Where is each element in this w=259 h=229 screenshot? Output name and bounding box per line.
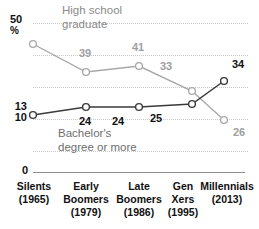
x-label-late-boomers-line2: Boomers [112,193,166,206]
x-label-early-boomers: Early Boomers (1979) [57,180,115,219]
value-label-ba-millennials: 34 [232,58,244,70]
y-axis-unit: % [10,25,22,36]
line-bachelors-degree-or-more [33,81,224,115]
x-axis-labels: Silents (1965) Early Boomers (1979) Late… [0,180,259,229]
point-hs-late-boomers [136,63,143,70]
x-label-late-boomers-line3: (1986) [112,206,166,219]
point-ba-early-boomers [83,104,90,111]
value-label-hs-gen-xers: 33 [160,60,172,72]
point-ba-gen-xers [189,101,196,108]
series-label-ba-line1: Bachelor's [58,126,137,140]
x-label-late-boomers: Late Boomers (1986) [112,180,166,219]
x-label-gen-xers-line3: (1995) [162,206,204,219]
plot-area: 50 % 0 13 10 High school graduate Bachel… [0,0,259,229]
value-label-ba-gen-xers: 25 [150,112,162,124]
point-ba-millennials [221,78,228,85]
x-label-silents-line1: Silents [6,180,62,193]
point-ba-late-boomers [136,104,143,111]
x-label-millennials-line1: Millennials [196,180,258,193]
x-label-early-boomers-line3: (1979) [57,206,115,219]
value-label-hs-late-boomers: 41 [132,41,144,53]
y-axis-zero-label: 0 [22,164,28,176]
point-hs-early-boomers [83,69,90,76]
x-label-millennials-line2: (2013) [196,193,258,206]
point-hs-silents [30,41,37,48]
series-label-ba-line2: degree or more [58,140,137,154]
x-label-early-boomers-line2: Boomers [57,193,115,206]
x-label-millennials: Millennials (2013) [196,180,258,206]
point-hs-gen-xers [189,88,196,95]
y-axis-max-value: 50 [10,13,22,25]
value-label-hs-early-boomers: 39 [79,47,91,59]
line-high-school-graduate [33,44,224,120]
x-label-silents-line2: (1965) [6,193,62,206]
series-label-bachelors-degree: Bachelor's degree or more [58,126,137,154]
x-label-late-boomers-line1: Late [112,180,166,193]
series-label-high-school-graduate: High school graduate [62,3,122,31]
point-ba-silents [30,112,37,119]
value-label-ba-early-boomers: 24 [79,115,91,127]
first-point-value-labels: 13 10 [9,101,27,123]
point-hs-millennials [221,117,228,124]
value-label-ba-late-boomers: 24 [112,115,124,127]
education-attainment-chart: 50 % 0 13 10 High school graduate Bachel… [0,0,259,229]
x-label-silents: Silents (1965) [6,180,62,206]
y-axis-max-label: 50 % [10,14,22,36]
series-label-hs-line2: graduate [62,17,122,31]
value-label-hs-millennials: 26 [233,126,245,138]
first-point-lower-value: 10 [9,112,27,123]
x-label-early-boomers-line1: Early [57,180,115,193]
series-label-hs-line1: High school [62,3,122,17]
